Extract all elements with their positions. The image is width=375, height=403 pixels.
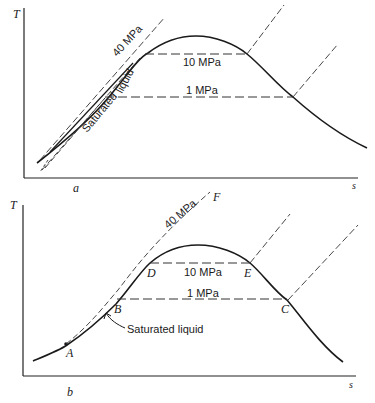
panel-b-saturation-dome <box>33 245 343 362</box>
point-b-label: B <box>114 302 122 316</box>
panel-a-isobar-40mpa <box>40 17 165 160</box>
panel-b-label: b <box>67 385 73 399</box>
point-d-label: D <box>146 266 156 280</box>
point-e-label: E <box>243 266 252 280</box>
panel-a-isobar-10mpa-superheat <box>247 5 284 54</box>
panel-b-label-saturated-liquid: Saturated liquid <box>127 323 203 335</box>
panel-b-x-axis-label: s <box>349 379 353 390</box>
panel-b-isobar-1mpa-superheat <box>288 225 358 300</box>
panel-a-isobar-1mpa-superheat <box>293 44 338 97</box>
panel-b-label-1mpa: 1 MPa <box>187 287 220 299</box>
panel-a-label-1mpa: 1 MPa <box>186 84 219 96</box>
panel-a-label-10mpa: 10 MPa <box>183 56 222 68</box>
panel-b-label-10mpa: 10 MPa <box>184 266 223 278</box>
panel-b-isobar-10mpa-superheat <box>250 214 290 263</box>
panel-a: T s a 40 MPa 10 MPa 1 MPa Saturated liqu… <box>13 5 367 195</box>
ts-diagram-figure: T s a 40 MPa 10 MPa 1 MPa Saturated liqu… <box>0 0 375 403</box>
point-c-label: C <box>281 302 290 316</box>
panel-b-label-40mpa: 40 MPa <box>162 196 199 230</box>
panel-a-label-40mpa: 40 MPa <box>110 22 145 59</box>
point-a-label: A <box>65 346 74 360</box>
panel-b: T s b 40 MPa 10 MPa 1 MPa Saturated liqu… <box>10 190 358 399</box>
point-f-label: F <box>212 190 221 204</box>
panel-a-y-axis-label: T <box>13 7 21 21</box>
panel-a-label: a <box>73 181 79 195</box>
panel-b-y-axis-label: T <box>10 198 18 212</box>
panel-a-x-axis-label: s <box>352 180 356 191</box>
panel-a-label-saturated: Saturated <box>79 90 119 134</box>
